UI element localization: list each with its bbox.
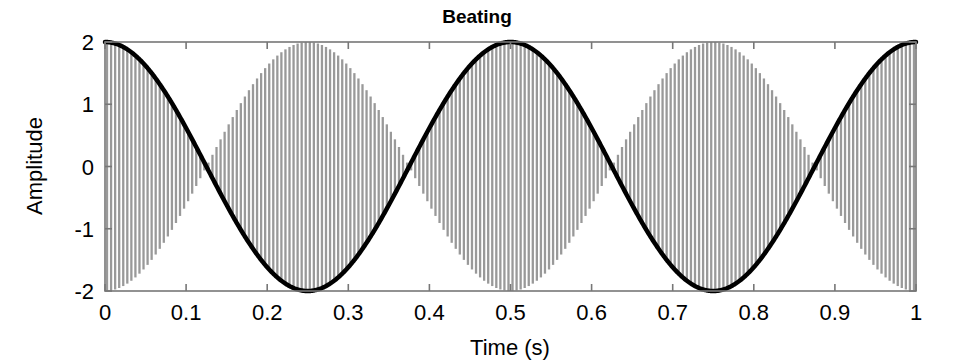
y-tick-label: 1	[82, 92, 94, 117]
x-tick-label: 0.2	[252, 300, 283, 325]
x-tick-label: 0.4	[414, 300, 445, 325]
envelope-upper-series	[105, 42, 916, 291]
x-tick-labels: 00.10.20.30.40.50.60.70.80.91	[99, 300, 922, 325]
plot-canvas: Amplitude Time (s) 210-1-2 00.10.20.30.4…	[0, 0, 954, 364]
x-tick-label: 0.9	[820, 300, 851, 325]
x-tick-label: 0.8	[739, 300, 770, 325]
x-tick-label: 0	[99, 300, 111, 325]
axis-frame	[105, 42, 916, 291]
axis-box	[105, 42, 916, 291]
x-tick-label: 0.6	[576, 300, 607, 325]
carrier-series	[107, 42, 914, 291]
x-tick-label: 0.3	[333, 300, 364, 325]
axis-ticks	[105, 42, 916, 291]
x-tick-label: 1	[910, 300, 922, 325]
y-tick-label: 0	[82, 155, 94, 180]
x-axis-title: Time (s)	[470, 335, 550, 360]
x-tick-label: 0.1	[171, 300, 202, 325]
x-tick-label: 0.5	[495, 300, 526, 325]
y-tick-label: -1	[74, 217, 94, 242]
y-tick-label: 2	[82, 30, 94, 55]
y-axis-title: Amplitude	[22, 117, 47, 215]
y-tick-label: -2	[74, 279, 94, 304]
plot-area	[105, 42, 916, 291]
chart-figure: Beating Amplitude Time (s) 210-1-2 00.10…	[0, 0, 954, 364]
x-tick-label: 0.7	[657, 300, 688, 325]
y-tick-labels: 210-1-2	[74, 30, 94, 304]
